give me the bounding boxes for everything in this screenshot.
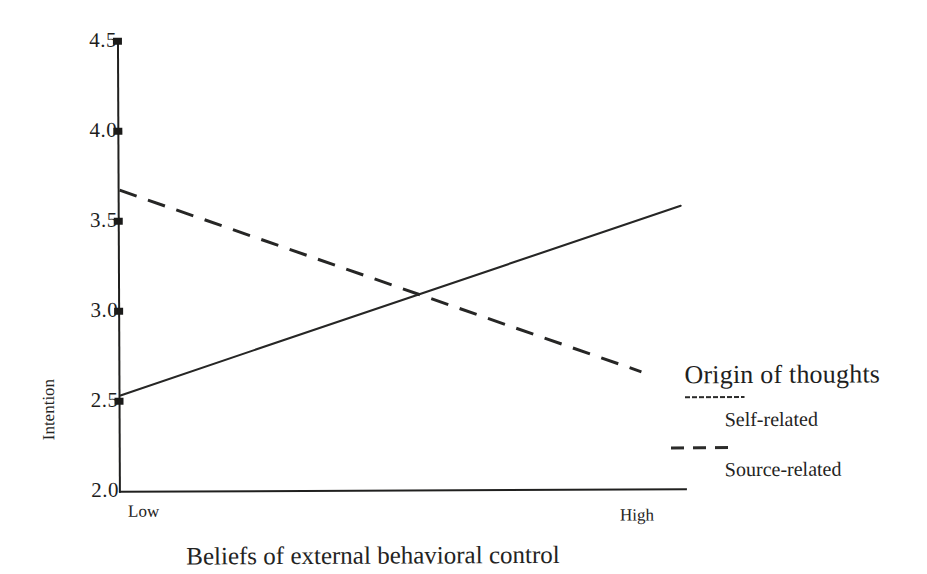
legend-label: Self-related [725,408,818,430]
legend-swatch-dashed-line-icon [671,446,731,449]
legend-entry-self-related: Self-related [684,389,927,440]
interaction-line-chart: 4.5 4.0 3.5 3.0 2.5 2.0 Low H [0,0,927,574]
series-line-source-related [120,188,642,374]
legend-label: Source-related [725,458,842,481]
legend: Origin of thoughts Self-related Source-r… [684,359,927,490]
x-axis-title: Beliefs of external behavioral control [186,542,560,569]
legend-title: Origin of thoughts [684,359,927,390]
x-category-label-low: Low [128,503,159,520]
legend-swatch-solid-line-icon [685,396,745,398]
legend-entry-source-related: Source-related [685,439,927,490]
x-category-label-high: High [620,506,654,523]
chart-plate: 4.5 4.0 3.5 3.0 2.5 2.0 Low H [0,0,927,574]
y-axis-title: Intention [40,350,58,470]
series-line-self-related [120,206,682,396]
